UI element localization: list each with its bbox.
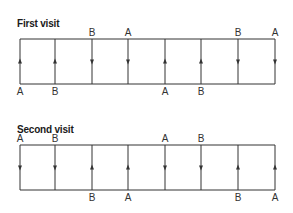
arrow-up-icon	[126, 165, 130, 170]
top-point-label: B	[89, 27, 96, 38]
bottom-point-label: B	[89, 192, 96, 203]
arrow-up-icon	[18, 59, 22, 64]
top-point-label: B	[198, 133, 205, 144]
arrow-down-icon	[90, 60, 94, 65]
bottom-point-label: A	[272, 192, 279, 203]
arrow-up-icon	[90, 165, 94, 170]
arrow-down-icon	[18, 166, 22, 171]
bottom-point-label: A	[162, 86, 169, 97]
arrow-up-icon	[236, 165, 240, 170]
top-point-label: B	[235, 27, 242, 38]
top-point-label: A	[162, 133, 169, 144]
arrow-down-icon	[126, 60, 130, 65]
arrow-down-icon	[53, 166, 57, 171]
arrow-up-icon	[273, 165, 277, 170]
top-point-label: B	[52, 133, 59, 144]
arrow-down-icon	[273, 60, 277, 65]
visit-flow-diagram: ABBAABBAABBAABBA	[0, 0, 293, 213]
top-point-label: A	[125, 27, 132, 38]
bottom-point-label: A	[17, 86, 24, 97]
bottom-point-label: B	[235, 192, 242, 203]
arrow-up-icon	[53, 59, 57, 64]
arrow-down-icon	[236, 60, 240, 65]
arrow-up-icon	[199, 59, 203, 64]
top-point-label: A	[272, 27, 279, 38]
bottom-point-label: A	[125, 192, 132, 203]
bottom-point-label: B	[52, 86, 59, 97]
arrow-down-icon	[163, 166, 167, 171]
top-point-label: A	[17, 133, 24, 144]
bottom-point-label: B	[198, 86, 205, 97]
arrow-up-icon	[163, 59, 167, 64]
arrow-down-icon	[199, 166, 203, 171]
